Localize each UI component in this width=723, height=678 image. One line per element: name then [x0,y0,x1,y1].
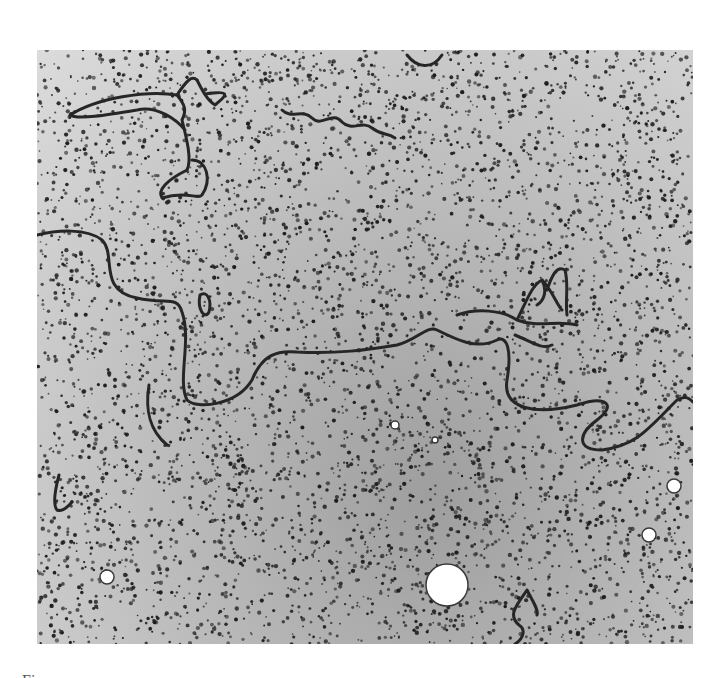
dna-micrograph [37,50,693,644]
grain-speckles [37,50,693,644]
figure-caption: Fi [22,672,35,678]
micrograph-drawing [37,50,693,644]
